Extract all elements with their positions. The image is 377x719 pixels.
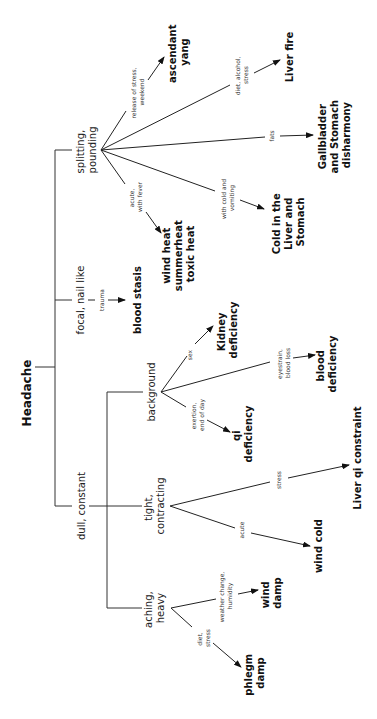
result-kidney-deficiency: Kidney deficiency — [216, 301, 239, 359]
result-wind-summer-toxic-heat: wind heat summerheat toxic heat — [161, 217, 196, 292]
svg-text:release of stress, weeke: release of stress, weekend — [130, 65, 145, 118]
result-liver-qi-constraint: Liver qi constraint — [352, 406, 363, 509]
svg-text:acute: acute — [238, 521, 245, 538]
svg-text:aching, heavy: aching, heavy — [143, 588, 166, 628]
svg-text:focal, nail like: focal, nail like — [75, 266, 86, 335]
result-qi-deficiency: qi deficiency — [231, 405, 254, 463]
root-label: Headache — [20, 360, 34, 427]
svg-text:diet, alcohol, stress: diet, alcohol, stress — [234, 55, 249, 96]
root-node: Headache — [20, 360, 34, 427]
tree-connectors — [35, 150, 143, 608]
result-blood-stasis: blood stasis — [132, 266, 143, 334]
branch-splitting-pounding: splitting, pounding release of stress, w… — [75, 21, 352, 291]
svg-text:trauma: trauma — [98, 289, 105, 311]
branch-label-line: splitting, — [75, 130, 86, 174]
branch-dull-constant: dull, constant background sex Kidney def… — [76, 301, 363, 696]
result-wind-damp: wind damp — [260, 577, 283, 608]
result-phlegm-damp: phlegm damp — [243, 650, 266, 696]
sub-branch-aching-heavy: aching, heavy weather change, humidity w… — [143, 570, 283, 696]
result-liver-fire: Liver fire — [284, 31, 295, 82]
svg-text:eyestrain, blood loss: eyestrain, blood loss — [276, 347, 291, 379]
headache-diagnosis-tree: Headache splitting, pounding release of … — [0, 0, 377, 719]
result-ascendant-yang: ascendant yang — [167, 21, 190, 83]
svg-text:fats: fats — [268, 130, 275, 141]
result-cold-liver-stomach: Cold in the Liver and Stomach — [271, 190, 306, 254]
result-blood-deficiency: blood deficiency — [315, 335, 338, 393]
svg-text:background: background — [146, 362, 157, 421]
svg-text:acute, with fever: acute, with fever — [128, 181, 143, 212]
svg-text:with cold and vomiting: with cold and vomiting — [220, 177, 236, 219]
result-gallbladder-stomach-disharmony: Gallbladder and Stomach disharmony — [317, 96, 352, 173]
svg-text:tight, contracting: tight, contracting — [143, 478, 166, 535]
sub-branch-background: background sex Kidney deficiency eyestra… — [146, 301, 338, 463]
branch-focal-nail-like: focal, nail like trauma blood stasis — [75, 266, 143, 335]
branch-label-line: pounding — [87, 127, 98, 174]
svg-text:splitting, pounding: splitting, pounding — [75, 127, 98, 174]
svg-text:weather change, humidi: weather change, humidity — [218, 570, 234, 622]
svg-text:diet, stress: diet, stress — [196, 629, 211, 647]
svg-text:stress: stress — [275, 471, 282, 489]
svg-text:sex: sex — [186, 349, 193, 360]
svg-text:exertion, end of day: exertion, end of day — [190, 399, 206, 431]
result-wind-cold: wind cold — [313, 519, 324, 573]
svg-text:dull, constant: dull, constant — [76, 472, 87, 540]
